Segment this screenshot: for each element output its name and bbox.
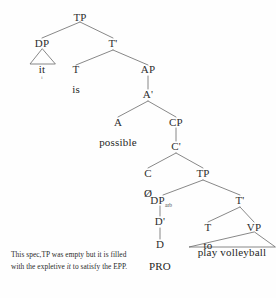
node-ap: AP [141, 64, 155, 75]
node-tp-root: TP [73, 12, 86, 23]
node-c-bar: C' [171, 141, 181, 152]
it-subscript: i [39, 76, 46, 81]
node-a-head: A [114, 117, 122, 128]
branch-tp-dparb [163, 180, 203, 195]
triangle-dp-it [30, 49, 55, 64]
dp-arb-subscript: arb [165, 202, 172, 208]
syntax-tree-figure: TP DP T' it i T is AP A' A possible CP C… [0, 0, 276, 298]
branch-abar-cp [148, 101, 176, 117]
caption-text: This spec,TP was empty but it is filled … [11, 249, 139, 273]
branch-abar-a [118, 101, 148, 117]
branch-tp-tbar-low [203, 180, 240, 195]
branch-tbar-low-vp [240, 207, 254, 222]
branch-tp-dp [42, 22, 80, 38]
it-text: it [39, 63, 46, 75]
node-d-bar: D' [155, 216, 165, 227]
branch-tbar-low-t [208, 207, 240, 222]
node-possible: possible [99, 137, 137, 148]
node-t-bar-low: T' [235, 195, 244, 206]
node-pro: PRO [149, 261, 171, 272]
node-t-head-low: T [205, 222, 212, 233]
node-d-head: D [156, 239, 164, 250]
node-is: is [72, 84, 80, 95]
node-t-head-top: T [73, 64, 80, 75]
dp-arb-text: DP [150, 194, 164, 206]
node-vp: VP [247, 222, 261, 233]
branch-tbar-t [76, 50, 113, 65]
node-play-volleyball: play volleyball [198, 247, 267, 258]
caption-part2: to satisfy the EPP. [71, 262, 127, 271]
triangle-vp [189, 232, 275, 247]
branch-cbar-c [148, 153, 176, 168]
node-dp-arb: DParb [150, 195, 172, 206]
node-cp: CP [169, 117, 183, 128]
node-t-bar-top: T' [108, 38, 117, 49]
node-c-head: C [144, 168, 152, 179]
node-tp-embedded: TP [196, 168, 209, 179]
branch-cbar-tp [176, 153, 203, 168]
node-dp-subject: DP [35, 38, 49, 49]
branch-tp-tbar [80, 22, 113, 38]
node-a-bar: A' [143, 89, 153, 100]
node-it: it i [39, 64, 46, 81]
